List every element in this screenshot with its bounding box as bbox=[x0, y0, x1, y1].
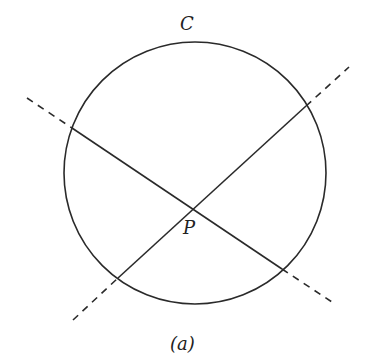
point-label: P bbox=[182, 217, 196, 238]
chord-1-extension-right bbox=[282, 269, 335, 304]
chord-2-extension-upper bbox=[306, 67, 349, 106]
circle-label: C bbox=[180, 13, 194, 34]
figure-caption: (a) bbox=[170, 333, 195, 354]
circle-chords-diagram: C P (a) bbox=[0, 0, 370, 360]
chord-2 bbox=[118, 106, 306, 278]
circle-C bbox=[64, 42, 326, 304]
chord-1 bbox=[72, 128, 282, 269]
chord-2-extension-lower bbox=[73, 278, 118, 320]
chord-1-extension-left bbox=[27, 98, 72, 128]
